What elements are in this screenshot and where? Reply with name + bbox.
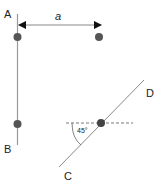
point-a-dot xyxy=(14,33,22,41)
label-d: D xyxy=(146,87,154,99)
label-b: B xyxy=(4,143,11,155)
point-b-dot xyxy=(14,120,22,128)
label-a: A xyxy=(4,8,12,20)
intersection-dot xyxy=(97,119,105,127)
label-dimension-a: a xyxy=(55,10,61,22)
label-angle: 45° xyxy=(77,127,88,134)
point-right-dot xyxy=(95,33,103,41)
label-c: C xyxy=(64,170,72,181)
diagram-canvas: A a B C D 45° xyxy=(0,0,159,181)
